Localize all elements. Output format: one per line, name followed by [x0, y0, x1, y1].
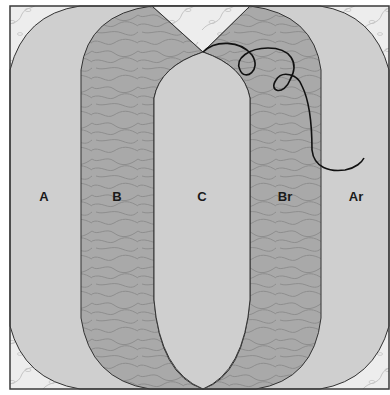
- piece-C: [154, 52, 250, 389]
- label-Ar: Ar: [349, 189, 363, 204]
- label-A: A: [39, 189, 49, 204]
- quilt-block-diagram: A B C Br Ar: [0, 0, 390, 395]
- label-C: C: [197, 189, 207, 204]
- label-Br: Br: [278, 189, 292, 204]
- label-B: B: [112, 189, 121, 204]
